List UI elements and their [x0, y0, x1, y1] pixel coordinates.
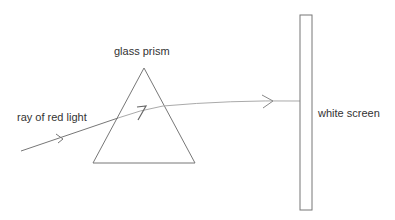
refraction-mark-icon — [137, 106, 146, 120]
white-screen — [300, 15, 312, 210]
outgoing-ray-arrow-icon — [262, 95, 273, 108]
label-ray-of-red-light: ray of red light — [17, 111, 87, 123]
outgoing-ray — [163, 101, 300, 106]
label-white-screen: white screen — [318, 107, 380, 119]
glass-prism — [93, 68, 195, 163]
label-glass-prism: glass prism — [114, 45, 170, 57]
